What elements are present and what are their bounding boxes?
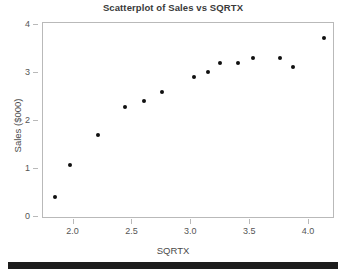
x-tick-mark bbox=[131, 219, 132, 224]
y-tick-mark bbox=[33, 216, 38, 217]
y-tick-mark bbox=[33, 120, 38, 121]
data-point bbox=[192, 75, 196, 79]
data-point bbox=[123, 105, 127, 109]
x-tick-mark bbox=[190, 219, 191, 224]
x-tick-label: 3.0 bbox=[184, 226, 197, 236]
x-tick-mark bbox=[308, 219, 309, 224]
x-tick-label: 2.0 bbox=[66, 226, 79, 236]
footer-bar bbox=[8, 262, 338, 269]
data-point bbox=[278, 56, 282, 60]
data-point bbox=[236, 61, 240, 65]
data-point bbox=[291, 65, 295, 69]
plot-area bbox=[42, 22, 334, 218]
data-point bbox=[53, 195, 57, 199]
y-tick-mark bbox=[33, 24, 38, 25]
y-tick-label: 3 bbox=[25, 67, 30, 77]
data-point bbox=[206, 70, 210, 74]
chart-title: Scatterplot of Sales vs SQRTX bbox=[0, 2, 346, 13]
scatterplot-figure: Scatterplot of Sales vs SQRTX 01234 Sale… bbox=[0, 0, 346, 270]
y-tick-mark bbox=[33, 72, 38, 73]
data-point bbox=[160, 90, 164, 94]
x-tick-label: 4.0 bbox=[302, 226, 315, 236]
data-point bbox=[251, 56, 255, 60]
y-tick-mark bbox=[33, 168, 38, 169]
y-tick-label: 4 bbox=[25, 19, 30, 29]
x-tick-label: 3.5 bbox=[243, 226, 256, 236]
data-point bbox=[142, 99, 146, 103]
data-point bbox=[96, 133, 100, 137]
x-tick-label: 2.5 bbox=[125, 226, 138, 236]
data-point bbox=[68, 163, 72, 167]
x-tick-mark bbox=[73, 219, 74, 224]
y-axis-title: Sales ($000) bbox=[12, 71, 23, 181]
data-point bbox=[322, 36, 326, 40]
x-tick-mark bbox=[249, 219, 250, 224]
x-axis-title: SQRTX bbox=[0, 245, 346, 256]
y-tick-label: 1 bbox=[25, 163, 30, 173]
x-axis: 2.02.53.03.54.0 bbox=[0, 218, 346, 248]
data-point bbox=[218, 61, 222, 65]
y-tick-label: 2 bbox=[25, 115, 30, 125]
